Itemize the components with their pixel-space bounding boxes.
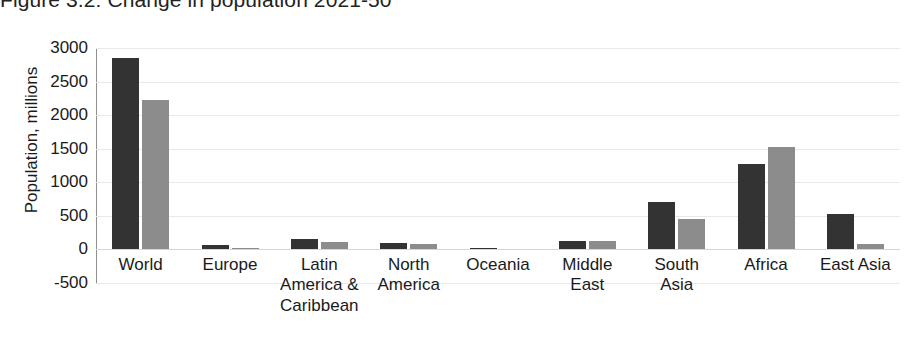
- y-axis-tick-label: 2000: [8, 106, 88, 123]
- bar: [827, 214, 854, 250]
- bar: [648, 202, 675, 250]
- x-axis-label: Oceania: [453, 255, 542, 275]
- figure-container: Figure 3.2: Change in population 2021-50…: [0, 0, 908, 346]
- figure-title: Figure 3.2: Change in population 2021-50: [0, 0, 392, 12]
- zero-baseline: [96, 249, 900, 250]
- gridline: [96, 115, 900, 116]
- y-axis-tick-label: 1000: [8, 173, 88, 190]
- bar: [559, 241, 586, 249]
- y-axis-tick-label: 2500: [8, 73, 88, 90]
- plot-area: [96, 48, 900, 283]
- bar: [291, 239, 318, 249]
- bar: [112, 58, 139, 249]
- x-axis-label: Europe: [185, 255, 274, 275]
- gridline: [96, 48, 900, 49]
- y-axis-title: Population, millions: [22, 45, 42, 235]
- x-axis-label: North America: [364, 255, 453, 295]
- bar: [678, 219, 705, 249]
- x-axis-label: World: [96, 255, 185, 275]
- y-axis-tick-label: 0: [8, 240, 88, 257]
- gridline: [96, 283, 900, 284]
- gridline: [96, 82, 900, 83]
- y-axis-line: [96, 48, 97, 283]
- y-axis-tick-label: -500: [8, 274, 88, 291]
- x-axis-label: East Asia: [811, 255, 900, 275]
- x-axis-label: Latin America & Caribbean: [275, 255, 364, 315]
- x-axis-label: Africa: [721, 255, 810, 275]
- y-axis-tick-label: 3000: [8, 39, 88, 56]
- y-axis-tick-label: 500: [8, 207, 88, 224]
- bar: [321, 242, 348, 249]
- bar: [142, 100, 169, 249]
- x-axis-label: South Asia: [632, 255, 721, 295]
- bar: [589, 241, 616, 249]
- y-axis-tick-label: 1500: [8, 140, 88, 157]
- bar: [768, 147, 795, 250]
- bar: [738, 164, 765, 249]
- x-axis-label: Middle East: [543, 255, 632, 295]
